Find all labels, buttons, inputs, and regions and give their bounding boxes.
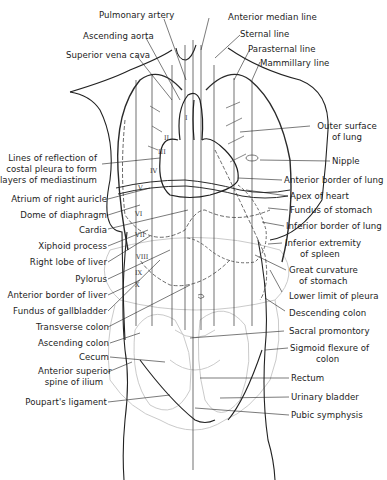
label-sigmoid-flexure-2: colon [316,354,339,364]
rib-numeral-3: III [158,148,166,156]
rib-numeral-5: V [138,184,143,192]
label-ascending-aorta: Ascending aorta [83,31,154,41]
label-pubic-symphysis: Pubic symphysis [291,410,363,420]
label-ascending-colon: Ascending colon [38,338,109,348]
label-parasternal-line: Parasternal line [248,44,316,54]
rib-numeral-1: I [185,114,188,122]
label-anterior-superior-spine-2: spine of ilium [38,377,110,387]
label-pouparts-ligament: Poupart's ligament [25,397,107,407]
label-pulmonary-artery: Pulmonary artery [99,10,174,20]
label-sternal-line: Sternal line [240,29,289,39]
label-great-curvature-1: Great curvature [289,265,358,275]
label-nipple: Nipple [332,156,360,166]
label-anterior-border-lung: Anterior border of lung [284,175,383,185]
label-outer-surface-lung-1: Outer surface [313,121,381,131]
label-xiphoid-process: Xiphoid process [38,241,107,251]
label-right-lobe-liver: Right lobe of liver [30,257,107,267]
label-urinary-bladder: Urinary bladder [291,392,359,402]
label-outer-surface-lung-2: of lung [313,132,381,142]
rib-numeral-6: VI [135,210,142,218]
lung-borders [123,120,271,300]
label-dome-of-diaphragm: Dome of diaphragm [20,210,107,220]
rib-numeral-4: IV [150,167,157,175]
rib-numeral-8: VIII [136,253,148,261]
label-apex-of-heart: Apex of heart [290,191,349,201]
label-anterior-border-liver: Anterior border of liver [8,290,107,300]
label-lines-of-reflection-2: costal pleura to form [6,164,97,174]
label-inferior-extremity-spleen-2: of spleen [300,249,340,259]
label-pylorus: Pylorus [75,274,107,284]
body-outline [70,45,328,480]
label-inferior-border-lung: Inferior border of lung [286,221,382,231]
label-superior-vena-cava: Superior vena cava [66,50,150,60]
label-rectum: Rectum [291,373,324,383]
label-atrium-right-auricle: Atrium of right auricle [11,194,107,204]
rib-numeral-2: II [164,134,169,142]
label-descending-colon: Descending colon [289,308,366,318]
label-anterior-median-line: Anterior median line [228,12,317,22]
label-lower-limit-pleura: Lower limit of pleura [289,291,379,301]
label-great-curvature-2: of stomach [299,276,347,286]
label-transverse-colon: Transverse colon [36,322,109,332]
label-fundus-gallbladder: Fundus of gallbladder [13,306,107,316]
label-lines-of-reflection-3: layers of mediastinum [0,175,97,185]
label-sigmoid-flexure-1: Sigmoid flexure of [290,343,369,353]
rib-numeral-10: X [135,281,140,289]
label-mammillary-line: Mammillary line [260,58,329,68]
anatomy-figure: I II III IV V VI VII VIII IX X Pulmonary… [0,0,387,480]
label-cardia: Cardia [79,225,107,235]
faint-organ-outlines [104,238,289,431]
label-sacral-promontory: Sacral promontory [289,326,370,336]
label-lines-of-reflection-1: Lines of reflection of [8,153,97,163]
rib-numeral-9: IX [135,269,142,277]
label-anterior-superior-spine-1: Anterior superior [38,366,110,376]
label-inferior-extremity-spleen-1: Inferior extremity [285,238,361,248]
label-cecum: Cecum [79,352,109,362]
label-fundus-of-stomach: Fundus of stomach [290,205,372,215]
rib-numeral-7: VII [135,231,145,239]
